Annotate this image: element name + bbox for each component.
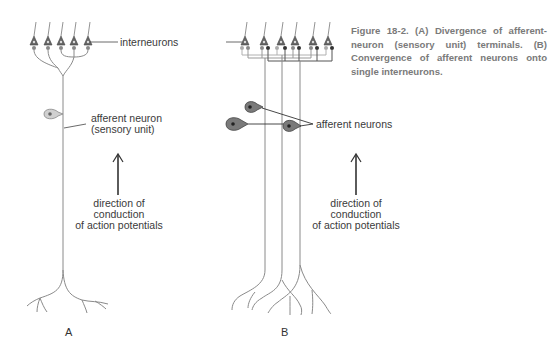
direction-label-a-3: of action potentials [60,220,178,231]
direction-label-b-3: of action potentials [297,220,415,231]
figure-caption: Figure 18-2. (A) Divergence of afferent-… [351,24,547,78]
panel-a-drawing [27,22,123,313]
panel-b-drawing [226,22,361,315]
panel-b-letter: B [281,326,288,338]
sensory-unit-label: (sensory unit) [91,124,155,135]
panel-a-letter: A [65,326,72,338]
afferent-neurons-label: afferent neurons [316,119,392,130]
interneurons-label: interneurons [120,37,178,48]
